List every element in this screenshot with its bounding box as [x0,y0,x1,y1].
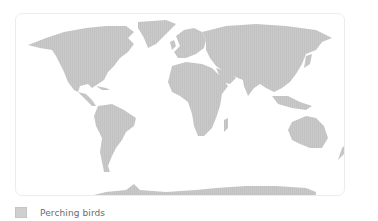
madagascar [224,118,228,132]
legend: Perching birds [15,206,105,219]
south-america [94,104,136,172]
antarctica [86,184,316,196]
world-map [16,14,345,196]
southeast-asia [272,96,312,110]
legend-swatch-perching-birds [15,207,27,218]
british-isles [170,40,176,50]
caribbean [96,86,110,90]
new-zealand [338,144,345,160]
north-america [28,26,134,92]
japan [304,54,312,68]
australia [288,116,328,148]
greenland [138,20,176,48]
legend-label-perching-birds: Perching birds [40,208,105,218]
india [242,76,256,96]
map-frame [15,13,345,196]
central-america [78,92,96,106]
europe [174,28,206,58]
